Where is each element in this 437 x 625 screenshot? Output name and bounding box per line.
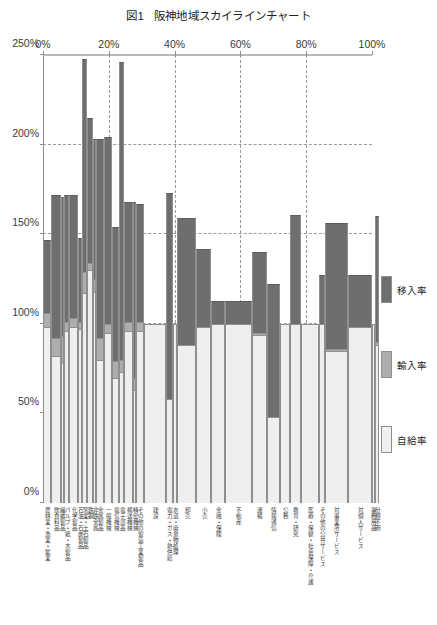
x-category-label: その他の公共サービス (319, 507, 325, 567)
bar-segment-transfer (112, 227, 119, 361)
bar-segment-transfer (375, 216, 380, 341)
bar (211, 301, 225, 503)
bar (301, 324, 319, 503)
bar-segment-self (136, 331, 144, 503)
x-tick-mark-0 (43, 51, 44, 55)
bar-segment-self (144, 324, 166, 503)
bar-segment-import (112, 361, 119, 377)
bar-segment-import (325, 349, 347, 351)
x-category-label: 教育・研究 (292, 507, 298, 537)
bar (43, 240, 51, 503)
bar (144, 324, 166, 503)
bar (112, 227, 119, 503)
bar-segment-self (43, 327, 51, 503)
legend-label-self: 自給率 (397, 433, 427, 447)
x-category-label: 医療・保健・社会保障・介護 (307, 507, 313, 585)
x-category-label: 不動産 (235, 507, 241, 525)
bar-segment-import (375, 342, 380, 346)
x-category-label: 建設 (152, 507, 158, 519)
bar (290, 215, 301, 504)
x-category-label: 金属製品 (97, 507, 103, 531)
legend-label-transfer: 移入率 (397, 283, 427, 297)
bar-segment-import (124, 322, 133, 331)
bar-segment-import (104, 324, 113, 333)
bar (166, 193, 173, 503)
bar-segment-transfer (69, 195, 78, 319)
x-category-label: 公務 (282, 507, 288, 519)
bar (104, 137, 113, 503)
bar-segment-transfer (104, 137, 113, 323)
bar-segment-self (375, 345, 380, 503)
x-category-label: 輸送機械 (126, 507, 132, 531)
legend-item-self[interactable]: 自給率 (381, 426, 427, 453)
y-tick-label-0: 0% (24, 485, 39, 497)
bar-segment-transfer (267, 284, 280, 417)
bar-segment-transfer (325, 223, 347, 348)
legend-swatch-import (381, 351, 392, 378)
bar-segment-self (96, 360, 103, 503)
x-category-label: 水道・廃棄物処理 (172, 507, 178, 555)
y-tick-mark-200 (40, 144, 43, 145)
bar-segment-import (252, 333, 267, 335)
bar-segment-self (124, 331, 133, 503)
x-tick-label-60: 60% (230, 38, 251, 50)
bar-segment-transfer (136, 204, 144, 322)
bar-segment-transfer (319, 275, 326, 323)
legend-swatch-self (381, 426, 392, 453)
bar-segment-transfer (252, 252, 267, 333)
bar-segment-transfer (211, 301, 225, 324)
x-category-label: その他の製造工業製品 (137, 507, 143, 567)
legend-label-import: 輸入率 (397, 358, 427, 372)
x-category-label: 運輸 (256, 507, 262, 519)
x-tick-label-80: 80% (296, 38, 317, 50)
x-category-label: 情報通信 (270, 507, 276, 531)
bar-segment-transfer (177, 218, 196, 345)
bar (124, 202, 133, 503)
x-category-label: パルプ・紙・木製品 (64, 507, 70, 561)
x-category-label: 電子部品 (119, 507, 125, 531)
x-category-labels: 農林業・漁業・鉱業飲食料品繊維製品パルプ・紙・木製品化学製品石油・石炭製品窯業・… (43, 507, 372, 623)
x-tick-label-100: 100% (359, 38, 386, 50)
x-tick-label-0: 0% (35, 38, 50, 50)
y-tick-mark-150 (40, 233, 43, 234)
bar (348, 275, 372, 503)
plot-area: 0%50%100%150%200%250% 0%20%40%60%80%100% (43, 55, 372, 503)
bar-segment-transfer (43, 240, 51, 313)
y-tick-label-100: 100% (12, 306, 39, 318)
bar-segment-transfer (290, 215, 301, 324)
bar-segment-self (267, 417, 280, 503)
bar-segment-self (112, 378, 119, 503)
x-category-label: 対個人サービス (357, 507, 363, 549)
x-category-label: 化学製品 (71, 507, 77, 531)
bar-segment-transfer (124, 202, 133, 322)
bar (196, 249, 210, 503)
bar (280, 324, 290, 503)
bar-segment-self (252, 335, 267, 503)
bar-segment-import (96, 338, 103, 360)
bar (51, 195, 61, 503)
x-tick-mark-40 (175, 51, 176, 55)
bar-segment-transfer (166, 193, 173, 399)
bar (225, 301, 251, 503)
x-tick-mark-60 (240, 51, 241, 55)
bar-segment-transfer (225, 301, 251, 324)
bar-segment-self (104, 333, 113, 503)
bar (136, 204, 144, 503)
figure-title-text: 阪神地域スカイラインチャート (154, 10, 311, 22)
x-tick-mark-80 (306, 51, 307, 55)
bar-segment-self (166, 399, 173, 503)
bar-segment-self (290, 324, 301, 503)
bar (325, 223, 347, 503)
legend-swatch-transfer (381, 276, 392, 303)
legend-item-transfer[interactable]: 移入率 (381, 276, 427, 303)
x-category-label: 一般機械 (105, 507, 111, 531)
bar-segment-self (280, 324, 290, 503)
legend-item-import[interactable]: 輸入率 (381, 351, 427, 378)
x-category-label: 分類不明 (374, 507, 380, 531)
x-category-label: 小売 (201, 507, 207, 519)
bar-segment-self (319, 324, 326, 503)
bar-segment-self (211, 324, 225, 503)
bar (96, 139, 103, 503)
bar (69, 195, 78, 503)
y-tick-label-150: 150% (12, 216, 39, 228)
